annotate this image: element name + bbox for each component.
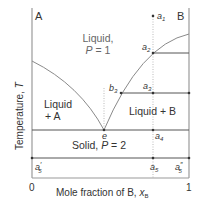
x-tick-1: 1 xyxy=(186,182,192,193)
point-a1 xyxy=(152,15,155,18)
phase-diagram: A B Liquid, P = 1 Liquid + A Liquid + B … xyxy=(0,0,202,210)
point-a5 xyxy=(152,157,155,160)
point-a3-end xyxy=(188,92,191,95)
label-a5p: a′5 xyxy=(35,161,42,174)
y-axis-label: Temperature, T xyxy=(14,81,25,150)
phase-count: = 2 xyxy=(108,139,126,151)
region-liquid-b: Liquid + B xyxy=(129,105,176,117)
x-tick-0: 0 xyxy=(29,182,35,193)
label-component-b: B xyxy=(177,10,184,22)
label-a4: a4 xyxy=(155,131,164,142)
var-p: P xyxy=(86,44,93,56)
region-solid: Solid, P = 2 xyxy=(72,139,126,151)
label-a1: a1 xyxy=(157,11,165,22)
label-a5: a5 xyxy=(150,162,159,173)
region-liquid-phases: P = 1 xyxy=(86,44,111,56)
region-liquid-a: Liquid xyxy=(44,98,72,110)
label-b3: b3 xyxy=(109,83,118,94)
point-a5pp xyxy=(188,157,191,160)
region-liquid: Liquid, xyxy=(83,32,114,44)
solid-label: Solid, xyxy=(72,139,101,151)
point-a2 xyxy=(152,52,155,55)
x-axis-label: Mole fraction of B, xB xyxy=(56,187,148,199)
point-a3 xyxy=(152,92,155,95)
label-a3: a3 xyxy=(143,81,152,92)
label-a5pp: a″5 xyxy=(175,161,183,174)
point-b3 xyxy=(120,92,123,95)
point-a4 xyxy=(152,129,155,132)
label-component-a: A xyxy=(35,10,43,22)
label-a2: a2 xyxy=(142,42,151,53)
region-liquid-a-plus: + A xyxy=(45,110,60,122)
point-a5p xyxy=(31,157,34,160)
label-e: e xyxy=(102,131,107,141)
liquidus-a-curve xyxy=(32,61,104,130)
phase-count: = 1 xyxy=(93,44,111,56)
